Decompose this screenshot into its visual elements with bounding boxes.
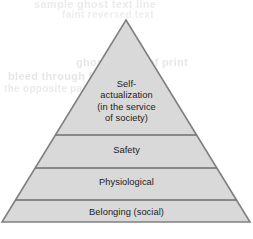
figure-canvas: sample ghost text line faint reversed te… — [0, 0, 253, 239]
pyramid-diagram — [0, 0, 253, 239]
pyramid-body — [2, 20, 250, 222]
